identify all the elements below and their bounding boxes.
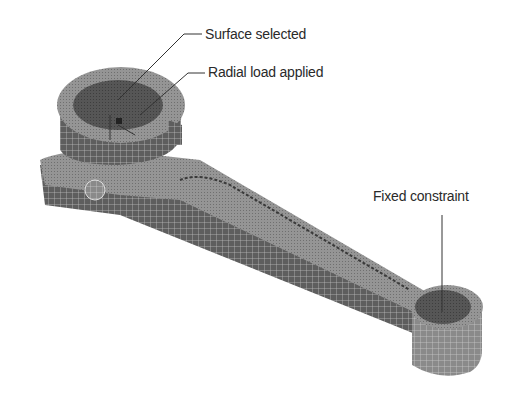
annotation-fixed-constraint: Fixed constraint <box>373 188 469 204</box>
fixed-surface <box>415 290 471 324</box>
small-end-boss <box>411 285 483 376</box>
connecting-rod-mesh-diagram <box>0 0 531 410</box>
annotation-surface-selected: Surface selected <box>205 26 306 42</box>
rod-beam <box>40 150 440 340</box>
annotation-radial-load-applied: Radial load applied <box>208 64 323 80</box>
